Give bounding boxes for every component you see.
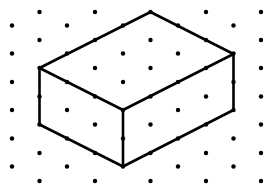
grid-dot [37, 151, 41, 155]
grid-dot [65, 23, 69, 27]
grid-dot [148, 122, 152, 126]
grid-dot [176, 80, 180, 84]
grid-dot [231, 51, 235, 55]
grid-dot [65, 164, 69, 168]
grid-dot [93, 122, 97, 126]
grid-dot [148, 179, 152, 183]
grid-dot [93, 179, 97, 183]
grid-dot [37, 94, 41, 98]
grid-dot [121, 164, 125, 168]
grid-dot [37, 66, 41, 70]
grid-dot [204, 66, 208, 70]
grid-dot [204, 151, 208, 155]
grid-dot [259, 179, 263, 183]
grid-dot [176, 164, 180, 168]
grid-dot [259, 122, 263, 126]
grid-dot [259, 66, 263, 70]
dot-grid-canvas [0, 0, 272, 187]
grid-dot [231, 80, 235, 84]
grid-dot [10, 164, 14, 168]
grid-dot [204, 10, 208, 14]
grid-dot [176, 23, 180, 27]
grid-dot [176, 51, 180, 55]
grid-dot [148, 66, 152, 70]
grid-dot [148, 38, 152, 42]
grid-dot [10, 51, 14, 55]
grid-dot [176, 136, 180, 140]
grid-dot [37, 179, 41, 183]
grid-dot [65, 51, 69, 55]
grid-dot [231, 136, 235, 140]
grid-dot [121, 80, 125, 84]
grid-dot [121, 108, 125, 112]
grid-dot [10, 80, 14, 84]
grid-dot [204, 122, 208, 126]
grid-dot [204, 38, 208, 42]
grid-dot [176, 108, 180, 112]
grid-dot [121, 136, 125, 140]
grid-dot [93, 38, 97, 42]
grid-dot [204, 179, 208, 183]
grid-dot [37, 38, 41, 42]
grid-dot [93, 94, 97, 98]
grid-dot [148, 94, 152, 98]
grid-dot [93, 66, 97, 70]
grid-dot [121, 23, 125, 27]
grid-dot [231, 23, 235, 27]
grid-dot [37, 10, 41, 14]
grid-dot [148, 151, 152, 155]
grid-dot [259, 38, 263, 42]
grid-dot [259, 151, 263, 155]
grid-dot [10, 23, 14, 27]
grid-dot [231, 164, 235, 168]
grid-dot [65, 136, 69, 140]
isometric-diagram [0, 0, 272, 187]
grid-dot [121, 51, 125, 55]
grid-dot [65, 80, 69, 84]
grid-dot [148, 10, 152, 14]
grid-dot [204, 94, 208, 98]
grid-dot [65, 108, 69, 112]
grid-dot [259, 10, 263, 14]
grid-dot [10, 136, 14, 140]
grid-dot [259, 94, 263, 98]
grid-dot [231, 108, 235, 112]
grid-dot [10, 108, 14, 112]
grid-dot [93, 151, 97, 155]
grid-dot [37, 122, 41, 126]
grid-dot [93, 10, 97, 14]
